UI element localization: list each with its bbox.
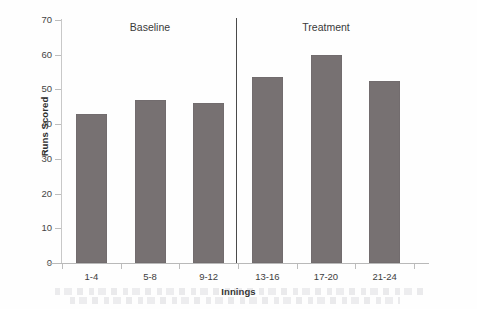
x-axis-tick-mark (297, 264, 298, 269)
y-axis-tick-label: 10 (22, 223, 52, 233)
x-axis-category-label: 5-8 (120, 272, 180, 282)
y-axis-tick-label: 30 (22, 154, 52, 164)
bar (252, 77, 283, 263)
y-axis-line (61, 19, 62, 264)
y-axis-tick-label: 70 (22, 15, 52, 25)
x-axis-category-label: 1-4 (61, 272, 121, 282)
scan-artifact-band (70, 297, 400, 304)
x-axis-tick-mark (238, 264, 239, 269)
bar-chart-figure: Runs Scored 010203040506070 1-45-89-1213… (0, 0, 477, 309)
x-axis-category-label: 9-12 (179, 272, 239, 282)
y-axis-tick-label: 40 (22, 119, 52, 129)
bar (369, 81, 400, 263)
scan-artifact-band (55, 288, 425, 295)
group-label-baseline: Baseline (90, 22, 210, 33)
x-axis-tick-mark (414, 264, 415, 269)
x-axis-category-label: 21-24 (355, 272, 415, 282)
x-axis-tick-mark (121, 264, 122, 269)
bar (193, 103, 224, 263)
bar (135, 100, 166, 263)
y-axis-tick-label: 20 (22, 189, 52, 199)
bar (311, 55, 342, 263)
group-label-treatment: Treatment (266, 22, 386, 33)
y-axis-tick-label: 50 (22, 84, 52, 94)
phase-divider-line (236, 18, 237, 263)
x-axis-category-label: 17-20 (296, 272, 356, 282)
x-axis-tick-mark (62, 264, 63, 269)
x-axis-category-label: 13-16 (237, 272, 297, 282)
x-axis-tick-mark (355, 264, 356, 269)
y-axis-tick-label: 60 (22, 50, 52, 60)
x-axis-tick-mark (179, 264, 180, 269)
bar (76, 114, 107, 263)
